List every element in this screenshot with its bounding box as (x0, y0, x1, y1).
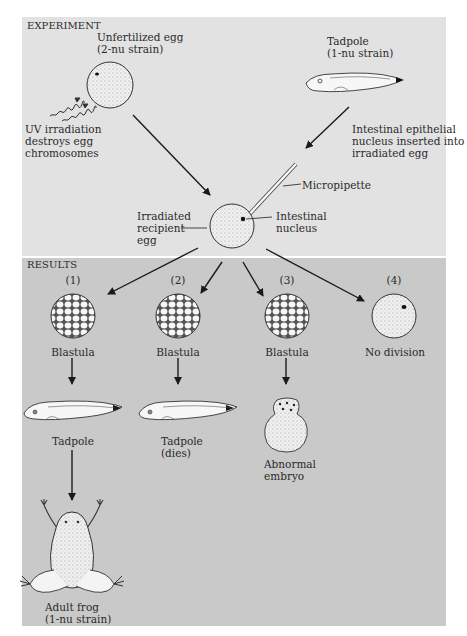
micropipette-label: Micropipette (302, 179, 371, 191)
uv-rays-icon (50, 98, 96, 121)
blastula-1-icon (51, 294, 95, 338)
outcome-1-blastula-label: Blastula (43, 346, 103, 358)
outcome-2-blastula-label: Blastula (148, 346, 208, 358)
donor-tadpole-label: Tadpole (1-nu strain) (327, 35, 393, 59)
blastula-3-icon (265, 294, 309, 338)
outcome-1-number: (1) (62, 274, 84, 286)
blastula-2-icon (156, 294, 200, 338)
donor-tadpole-icon (306, 73, 404, 92)
outcome-3-abnormal-embryo-label: Abnormal embryo (264, 458, 316, 482)
diagram-graphics (0, 0, 467, 636)
outcome-4-no-division-label: No division (359, 346, 431, 358)
tadpole-1-icon (24, 401, 122, 420)
tadpole-2-icon (139, 401, 237, 420)
arrow-nucleus-transfer (306, 107, 349, 148)
arrow-to-outcome-2 (201, 262, 222, 293)
undivided-egg-icon (372, 294, 416, 338)
abnormal-embryo-icon (265, 398, 308, 452)
outcome-4-number: (4) (383, 274, 405, 286)
unfertilized-egg-icon (87, 62, 133, 108)
outcome-3-blastula-label: Blastula (257, 346, 317, 358)
adult-frog-icon (20, 499, 124, 592)
results-header: RESULTS (27, 259, 77, 270)
experiment-header: EXPERIMENT (27, 20, 101, 31)
outcome-2-tadpole-dies-label: Tadpole (dies) (161, 435, 203, 459)
recipient-egg-label: Irradiated recipient egg (137, 210, 191, 246)
uv-irradiation-label: UV irradiation destroys egg chromosomes (25, 123, 101, 159)
intestinal-nucleus-label: Intestinal nucleus (276, 210, 327, 234)
outcome-2-number: (2) (167, 274, 189, 286)
outcome-1-adult-frog-label: Adult frog (1-nu strain) (45, 601, 111, 625)
arrow-egg-to-recipient (133, 115, 210, 195)
outcome-1-tadpole-label: Tadpole (43, 435, 103, 447)
outcome-3-number: (3) (276, 274, 298, 286)
nucleus-insertion-label: Intestinal epithelial nucleus inserted i… (352, 123, 464, 159)
arrow-to-outcome-1 (108, 248, 198, 294)
arrow-to-outcome-3 (243, 262, 263, 296)
recipient-egg-icon (181, 204, 272, 248)
unfertilized-egg-label: Unfertilized egg (2-nu strain) (97, 31, 184, 55)
